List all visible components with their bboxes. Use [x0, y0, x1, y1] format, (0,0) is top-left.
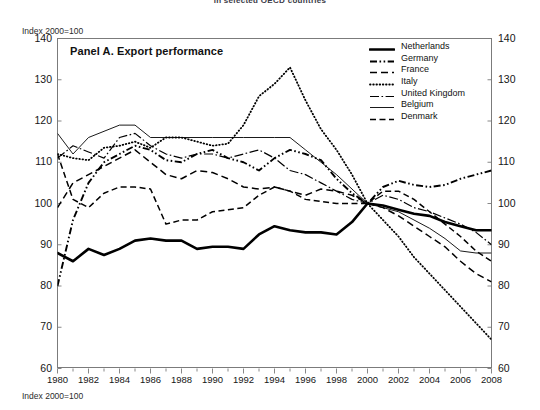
legend-item-germany[interactable]: Germany: [369, 53, 465, 65]
legend-line-swatch: [369, 99, 395, 110]
y-axis-tick-label: 70: [22, 320, 52, 332]
y-axis-tick-label: 100: [22, 197, 52, 209]
y-axis-tick-label: 140: [498, 32, 528, 44]
y-axis-tick-label: 70: [498, 320, 528, 332]
panel-title: Panel A. Export performance: [70, 45, 223, 57]
legend-line-swatch: [369, 41, 395, 52]
index-note-bottom: Index 2000=100: [22, 391, 83, 401]
y-axis-tick-label: 60: [22, 362, 52, 374]
series-line-denmark: [58, 154, 492, 261]
y-axis-tick-label: 90: [498, 238, 528, 250]
y-axis-tick-label: 60: [498, 362, 528, 374]
y-axis-tick-label: 110: [22, 155, 52, 167]
legend-item-label: France: [401, 64, 429, 75]
y-axis-tick-label: 80: [498, 279, 528, 291]
x-axis-tick-label: 2008: [472, 374, 512, 385]
y-axis-tick-label: 120: [498, 114, 528, 126]
figure-root: in selected OECD countries Index 2000=10…: [0, 0, 540, 410]
series-line-netherlands: [58, 204, 492, 262]
legend-line-swatch: [369, 76, 395, 87]
legend-line-swatch: [369, 111, 395, 122]
legend-line-swatch: [369, 88, 395, 99]
chart-legend: NetherlandsGermanyFranceItalyUnited King…: [369, 41, 465, 122]
legend-item-france[interactable]: France: [369, 64, 465, 76]
y-axis-tick-label: 110: [498, 155, 528, 167]
y-axis-tick-label: 140: [22, 32, 52, 44]
y-axis-tick-label: 130: [498, 73, 528, 85]
legend-line-swatch: [369, 53, 395, 64]
legend-item-denmark[interactable]: Denmark: [369, 111, 465, 123]
y-axis-tick-label: 100: [498, 197, 528, 209]
y-axis-tick-label: 90: [22, 238, 52, 250]
legend-item-label: Italy: [401, 76, 418, 87]
series-line-united-kingdom: [58, 133, 492, 244]
y-axis-tick-label: 130: [22, 73, 52, 85]
legend-item-label: Germany: [401, 53, 438, 64]
legend-item-united-kingdom[interactable]: United Kingdom: [369, 87, 465, 99]
legend-item-netherlands[interactable]: Netherlands: [369, 41, 465, 53]
legend-item-label: Netherlands: [401, 41, 450, 52]
legend-item-italy[interactable]: Italy: [369, 76, 465, 88]
legend-item-label: Denmark: [401, 111, 438, 122]
legend-line-swatch: [369, 64, 395, 75]
legend-item-label: Belgium: [401, 99, 434, 110]
legend-item-belgium[interactable]: Belgium: [369, 99, 465, 111]
legend-item-label: United Kingdom: [401, 88, 465, 99]
y-axis-tick-label: 80: [22, 279, 52, 291]
y-axis-tick-label: 120: [22, 114, 52, 126]
